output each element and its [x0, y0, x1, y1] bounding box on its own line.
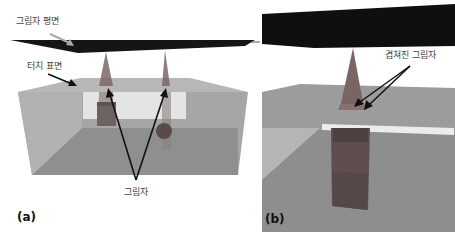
arrow-touch-surface — [48, 74, 72, 84]
tall-box-lower — [332, 172, 368, 210]
shadow-plane — [10, 40, 255, 53]
panel-a-scene — [10, 34, 255, 180]
label-shadow-plane: 그림자 평면 — [16, 14, 59, 27]
touch-surface-top — [18, 78, 248, 92]
label-touch-surface: 터치 표면 — [27, 59, 62, 72]
sphere-object — [156, 123, 172, 139]
shadow-cone-right — [162, 50, 170, 86]
overlapped-shadow-base — [338, 104, 366, 110]
label-overlapped-shadow: 겹쳐진 그림자 — [385, 48, 436, 61]
label-shadow: 그림자 — [124, 185, 148, 198]
shadow-cone-left — [99, 52, 113, 86]
panel-b-tag: (b) — [265, 212, 285, 226]
panel-b-scene — [251, 0, 455, 232]
figure-canvas — [0, 0, 455, 242]
beam-right-lower — [162, 92, 171, 150]
panel-a-tag: (a) — [17, 210, 36, 224]
tall-box-top — [333, 128, 368, 142]
